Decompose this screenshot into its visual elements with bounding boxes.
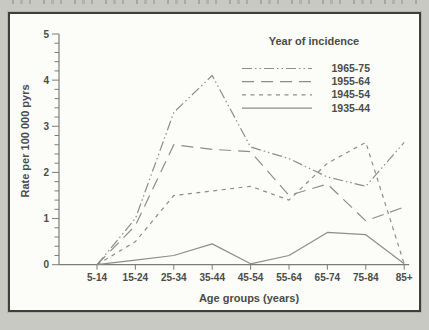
chart-panel: 0123455-1415-2425-3435-4445-5455-6465-74…: [8, 12, 421, 312]
x-tick-label: 65-74: [315, 272, 341, 283]
series-line-1955-64: [97, 145, 404, 265]
x-tick-label: 75-84: [353, 272, 379, 283]
y-tick-label: 5: [43, 29, 49, 40]
scanned-page: 0123455-1415-2425-3435-4445-5455-6465-74…: [0, 0, 429, 330]
y-tick-label: 4: [43, 75, 49, 86]
y-tick-label: 0: [43, 259, 49, 270]
legend-label: 1965-75: [331, 62, 370, 74]
y-tick-label: 1: [43, 213, 49, 224]
x-tick-label: 25-34: [161, 272, 187, 283]
y-axis-title: Rate per 100 000 pyrs: [19, 84, 31, 197]
series-line-1935-44: [97, 232, 404, 264]
legend-label: 1955-64: [331, 75, 370, 87]
x-tick-label: 35-44: [199, 272, 225, 283]
x-tick-label: 45-54: [238, 272, 264, 283]
legend-label: 1935-44: [331, 102, 370, 114]
x-axis-title: Age groups (years): [199, 292, 300, 304]
x-tick-label: 85+: [396, 272, 413, 283]
y-tick-label: 3: [43, 121, 49, 132]
y-tick-label: 2: [43, 167, 49, 178]
legend-label: 1945-54: [331, 88, 370, 100]
incidence-line-chart: 0123455-1415-2425-3435-4445-5455-6465-74…: [10, 14, 419, 310]
cropped-caption-fragment: [6, 0, 422, 4]
series-line-1945-54: [97, 142, 404, 264]
legend-title: Year of incidence: [269, 35, 359, 47]
x-tick-label: 5-14: [87, 272, 107, 283]
x-tick-label: 55-64: [276, 272, 302, 283]
x-tick-label: 15-24: [123, 272, 149, 283]
